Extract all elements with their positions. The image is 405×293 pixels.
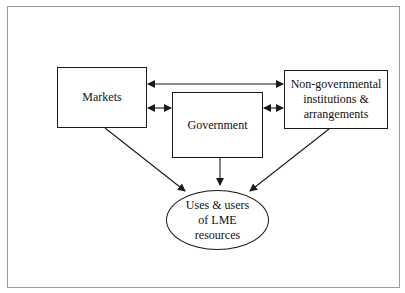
node-uses-and-users: Uses & users of LME resources <box>166 190 269 250</box>
node-markets: Markets <box>57 67 147 128</box>
node-government: Government <box>172 92 263 158</box>
node-ngo-line-2: institutions & <box>303 92 369 107</box>
node-uses-line-3: resources <box>195 228 240 243</box>
node-ngo-line-3: arrangements <box>304 107 369 122</box>
node-markets-label: Markets <box>82 90 121 105</box>
node-non-governmental-institutions: Non-governmental institutions & arrangem… <box>284 70 388 129</box>
node-uses-line-1: Uses & users <box>186 198 249 213</box>
node-ngo-line-1: Non-governmental <box>291 77 382 92</box>
node-uses-line-2: of LME <box>198 213 236 228</box>
node-government-label: Government <box>188 118 248 133</box>
